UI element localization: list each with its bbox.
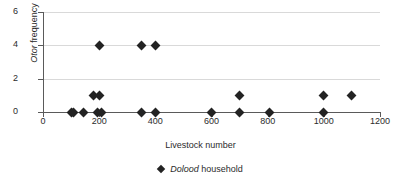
data-point xyxy=(94,40,104,50)
data-point xyxy=(235,107,245,117)
scatter-chart: 0246 020040060080010001200 Otor frequenc… xyxy=(0,0,401,187)
x-tick-label: 600 xyxy=(192,117,232,126)
data-point xyxy=(319,90,329,100)
legend-label-italic: Dolood xyxy=(170,164,199,174)
y-axis-title-italic: Otor xyxy=(29,45,39,63)
x-tick-label: 200 xyxy=(79,117,119,126)
data-point xyxy=(136,107,146,117)
y-axis-title: Otor frequency xyxy=(29,0,39,73)
x-tick-label: 400 xyxy=(135,117,175,126)
x-tick-label: 1200 xyxy=(360,117,400,126)
y-tick xyxy=(38,79,43,80)
y-tick-label: 2 xyxy=(0,74,18,83)
y-tick-label: 0 xyxy=(0,107,18,116)
y-axis-line xyxy=(43,12,44,112)
y-axis-title-rest: frequency xyxy=(29,3,39,45)
data-point xyxy=(136,40,146,50)
chart-legend: Dolood household xyxy=(0,164,401,175)
data-point xyxy=(79,107,89,117)
gridline xyxy=(43,79,380,80)
legend-diamond-icon xyxy=(157,164,165,172)
x-tick-label: 800 xyxy=(248,117,288,126)
x-tick-label: 1000 xyxy=(304,117,344,126)
legend-label-rest: household xyxy=(199,164,243,174)
x-tick-label: 0 xyxy=(23,117,63,126)
gridline xyxy=(43,12,380,13)
x-axis-title: Livestock number xyxy=(0,140,401,150)
data-point xyxy=(347,90,357,100)
data-point xyxy=(235,90,245,100)
data-point xyxy=(150,40,160,50)
y-tick-label: 4 xyxy=(0,40,18,49)
y-tick-label: 6 xyxy=(0,7,18,16)
